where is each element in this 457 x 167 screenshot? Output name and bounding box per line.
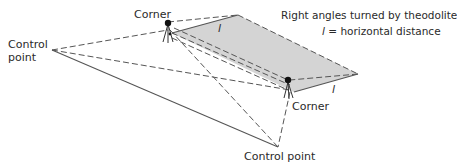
distance-label-top: l <box>218 22 221 35</box>
legend-line-1: Right angles turned by theodolite <box>281 9 457 22</box>
control-point-label-bottom: Control point <box>244 150 315 163</box>
control-point-left-line2: point <box>8 51 48 64</box>
control-point-left-line1: Control <box>8 38 48 51</box>
control-point-label-left: Control point <box>8 38 48 64</box>
legend-line-2: l = horizontal distance <box>322 25 441 38</box>
distance-label-right: l <box>332 83 335 96</box>
corner-label-top: Corner <box>134 8 171 21</box>
legend-line-2-text: = horizontal distance <box>325 25 441 37</box>
corner-label-bottom: Corner <box>292 100 329 113</box>
